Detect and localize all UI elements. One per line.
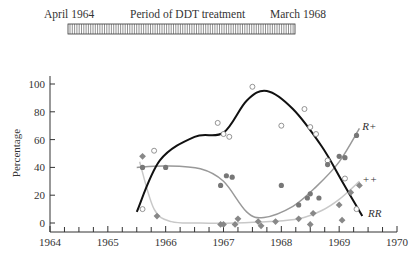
curve-label: R+ <box>361 120 376 132</box>
point-rplus <box>230 175 235 180</box>
point-rr <box>227 134 232 139</box>
point-rr <box>302 107 307 112</box>
y-tick-label: 0 <box>40 217 46 229</box>
point-rplus <box>316 195 321 200</box>
curve-label: ++ <box>362 173 377 185</box>
point-plusplus <box>235 215 242 222</box>
x-tick-label: 1967 <box>213 236 236 248</box>
y-tick-label: 100 <box>29 78 46 90</box>
point-plusplus <box>336 202 343 209</box>
point-plusplus <box>232 221 239 228</box>
point-rr <box>152 148 157 153</box>
point-rplus <box>218 183 223 188</box>
curves <box>137 91 363 223</box>
point-plusplus <box>295 215 302 222</box>
point-rplus <box>296 202 301 207</box>
point-plusplus <box>339 217 346 224</box>
point-rr <box>342 176 347 181</box>
point-rr <box>250 84 255 89</box>
x-tick-label: 1964 <box>39 236 62 248</box>
point-rplus <box>354 133 359 138</box>
point-rplus <box>224 173 229 178</box>
treatment-title: Period of DDT treatment <box>130 8 246 20</box>
treatment-start-label: April 1964 <box>44 8 94 21</box>
point-rr <box>354 207 359 212</box>
y-tick-label: 20 <box>34 189 46 201</box>
point-rplus <box>308 191 313 196</box>
chart-svg: April 1964 Period of DDT treatment March… <box>0 0 415 260</box>
x-tick-label: 1968 <box>270 236 293 248</box>
point-plusplus <box>272 218 279 225</box>
figure: April 1964 Period of DDT treatment March… <box>0 0 415 260</box>
y-tick-label: 80 <box>34 106 46 118</box>
x-tick-label: 1966 <box>155 236 178 248</box>
point-plusplus <box>139 153 146 160</box>
curve-Rplus <box>137 128 360 217</box>
curve-label: RR <box>367 207 382 219</box>
point-rr <box>308 125 313 130</box>
x-tick-label: 1969 <box>328 236 351 248</box>
point-rplus <box>337 154 342 159</box>
axes: 0204060801001964196519661967196819691970 <box>29 76 409 248</box>
curve-RR <box>137 91 363 216</box>
y-axis-label: Percentage <box>10 129 22 177</box>
point-rr <box>140 207 145 212</box>
point-rr <box>279 123 284 128</box>
treatment-end-label: March 1968 <box>270 8 326 20</box>
point-rplus <box>342 155 347 160</box>
point-rr <box>215 120 220 125</box>
curve-labels: R+++RR <box>361 120 382 220</box>
point-plusplus <box>154 213 161 220</box>
treatment-period-header: April 1964 Period of DDT treatment March… <box>44 8 326 34</box>
x-tick-label: 1965 <box>97 236 120 248</box>
point-plusplus <box>347 189 354 196</box>
point-rr <box>221 132 226 137</box>
y-tick-label: 60 <box>34 134 46 146</box>
x-tick-label: 1970 <box>386 236 409 248</box>
point-rplus <box>140 165 145 170</box>
point-rplus <box>325 162 330 167</box>
point-rplus <box>279 183 284 188</box>
treatment-hatched-bar <box>68 24 295 34</box>
point-rr <box>314 132 319 137</box>
point-rplus <box>163 165 168 170</box>
y-tick-label: 40 <box>34 161 46 173</box>
point-plusplus <box>307 221 314 228</box>
